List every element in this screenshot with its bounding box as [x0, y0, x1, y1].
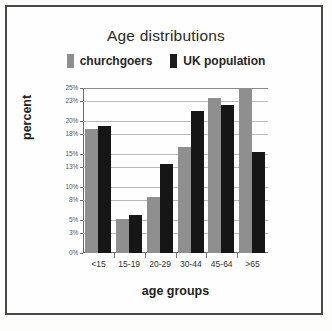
bar-churchgoers	[239, 88, 252, 253]
bar-churchgoers	[85, 129, 98, 253]
x-tick-label: >65	[237, 259, 268, 269]
legend-item-uk-population: UK population	[170, 54, 265, 68]
chart-title: Age distributions	[0, 27, 332, 45]
y-tick-label: 18%	[66, 130, 78, 137]
legend-item-churchgoers: churchgoers	[67, 54, 153, 68]
bar-uk-population	[98, 126, 111, 253]
legend-label-uk-population: UK population	[183, 54, 265, 68]
x-axis-title: age groups	[83, 284, 268, 298]
bar-uk-population	[129, 215, 142, 253]
bar-uk-population	[191, 111, 204, 253]
bar-group	[114, 88, 145, 253]
bar-churchgoers	[147, 197, 160, 253]
bar-churchgoers	[116, 219, 129, 253]
legend-swatch-uk-population	[170, 54, 177, 68]
x-tick-label: 45-64	[206, 259, 237, 269]
x-tick-label: 20-29	[145, 259, 176, 269]
x-tick-label: <15	[83, 259, 114, 269]
y-axis-title: percent	[20, 95, 34, 140]
y-tick-label: 3%	[69, 229, 78, 236]
x-tick-separator	[237, 253, 238, 258]
x-tick-label: 30-44	[176, 259, 207, 269]
y-tick-label: 13%	[66, 163, 78, 170]
x-tick-separator	[176, 253, 177, 258]
bar-group	[83, 88, 114, 253]
chart-figure: Age distributions churchgoers UK populat…	[0, 0, 332, 331]
x-axis-ticks: <1515-1920-2930-4445-64>65	[83, 253, 268, 275]
bar-group	[176, 88, 207, 253]
y-tick-label: 20%	[66, 117, 78, 124]
bar-churchgoers	[178, 147, 191, 253]
y-tick-label: 25%	[66, 84, 78, 91]
bar-churchgoers	[208, 98, 221, 253]
bars-layer	[83, 88, 268, 253]
x-tick-separator	[114, 253, 115, 258]
bar-uk-population	[221, 105, 234, 254]
x-tick-separator	[206, 253, 207, 258]
x-tick-label: 15-19	[114, 259, 145, 269]
y-tick-label: 15%	[66, 150, 78, 157]
y-tick-label: 10%	[66, 183, 78, 190]
legend-swatch-churchgoers	[67, 54, 74, 68]
bar-group	[206, 88, 237, 253]
bar-group	[145, 88, 176, 253]
bar-uk-population	[160, 164, 173, 253]
y-tick-label: 23%	[66, 97, 78, 104]
x-tick-separator	[145, 253, 146, 258]
y-tick-label: 8%	[69, 196, 78, 203]
legend-label-churchgoers: churchgoers	[80, 54, 153, 68]
chart-legend: churchgoers UK population	[0, 54, 332, 68]
y-tick-label: 5%	[69, 216, 78, 223]
bar-uk-population	[252, 152, 265, 253]
bar-group	[237, 88, 268, 253]
y-tick-label: 0%	[69, 249, 78, 256]
